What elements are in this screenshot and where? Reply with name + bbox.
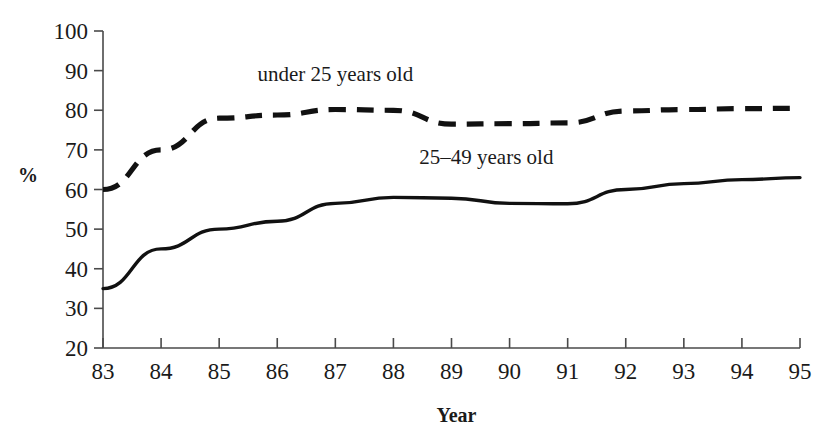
x-axis-title: Year <box>437 404 477 426</box>
y-tick-label-100: 100 <box>54 19 89 44</box>
y-tick-label-30: 30 <box>65 296 88 321</box>
chart-figure: 2030405060708090100 83848586878889909192… <box>0 0 820 443</box>
x-tick-label-91: 91 <box>556 359 579 384</box>
x-tick-label-88: 88 <box>382 359 405 384</box>
y-axis-tick-labels: 2030405060708090100 <box>54 19 89 361</box>
x-tick-label-85: 85 <box>208 359 231 384</box>
y-tick-label-40: 40 <box>65 257 88 282</box>
x-tick-label-83: 83 <box>92 359 115 384</box>
series-label-25-49: 25–49 years old <box>419 145 554 169</box>
x-tick-label-92: 92 <box>614 359 637 384</box>
y-tick-label-80: 80 <box>65 98 88 123</box>
x-tick-label-87: 87 <box>324 359 347 384</box>
series-label-under-25: under 25 years old <box>257 62 413 86</box>
series-line-25-49 <box>103 178 800 289</box>
series-group <box>103 108 800 288</box>
y-axis-ticks <box>94 31 103 348</box>
chart-canvas: 2030405060708090100 83848586878889909192… <box>0 0 820 443</box>
x-axis-group: 83848586878889909192939495 <box>92 338 812 384</box>
y-axis-title: % <box>18 164 38 186</box>
y-tick-label-50: 50 <box>65 217 88 242</box>
y-tick-label-70: 70 <box>65 138 88 163</box>
x-tick-label-86: 86 <box>266 359 289 384</box>
x-tick-label-89: 89 <box>440 359 463 384</box>
y-tick-label-20: 20 <box>65 336 88 361</box>
x-axis-tick-labels: 83848586878889909192939495 <box>92 359 812 384</box>
y-tick-label-60: 60 <box>65 178 88 203</box>
y-tick-label-90: 90 <box>65 59 88 84</box>
x-tick-label-90: 90 <box>498 359 521 384</box>
x-axis-ticks <box>103 338 800 348</box>
x-tick-label-94: 94 <box>730 359 754 384</box>
x-tick-label-95: 95 <box>789 359 812 384</box>
y-axis-group: 2030405060708090100 <box>54 19 104 361</box>
x-tick-label-84: 84 <box>150 359 174 384</box>
x-tick-label-93: 93 <box>672 359 695 384</box>
